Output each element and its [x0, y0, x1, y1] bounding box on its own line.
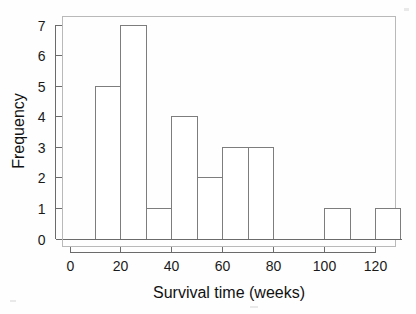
y-tick-label: 0: [38, 232, 46, 248]
x-tick-label: 0: [67, 258, 75, 274]
histogram-bar: [376, 209, 401, 240]
y-tick-label: 4: [38, 109, 46, 125]
histogram-bar: [172, 117, 198, 240]
bars-group: [96, 26, 401, 240]
histogram-bar: [96, 87, 121, 240]
y-axis-ticks: [56, 26, 62, 240]
histogram-bar: [198, 178, 223, 240]
x-tick-label: 60: [215, 258, 231, 274]
histogram-bar: [121, 26, 147, 240]
y-tick-label: 5: [38, 79, 46, 95]
y-axis-title: Frequency: [10, 93, 27, 169]
x-axis-ticks: [71, 247, 376, 253]
histogram-bar: [249, 148, 274, 240]
histogram-bar: [325, 209, 351, 240]
x-tick-label: 100: [313, 258, 337, 274]
y-tick-label: 1: [38, 201, 46, 217]
x-tick-label: 40: [164, 258, 180, 274]
x-tick-label: 20: [113, 258, 129, 274]
x-axis-title: Survival time (weeks): [153, 284, 305, 301]
histogram-bar: [223, 148, 249, 240]
histogram-plot: 020406080100120 01234567 Survival time (…: [0, 0, 416, 314]
y-tick-label: 6: [38, 48, 46, 64]
y-tick-label: 2: [38, 170, 46, 186]
scan-speck: [404, 8, 409, 11]
histogram-figure: 020406080100120 01234567 Survival time (…: [0, 0, 416, 314]
histogram-bar: [147, 209, 172, 240]
y-tick-label: 3: [38, 140, 46, 156]
x-tick-label: 120: [364, 258, 388, 274]
x-tick-labels: 020406080100120: [67, 258, 388, 274]
scan-speck: [250, 306, 258, 308]
y-tick-labels: 01234567: [38, 18, 46, 248]
y-axis: [56, 25, 62, 240]
x-axis: [70, 247, 376, 253]
x-tick-label: 80: [266, 258, 282, 274]
y-tick-label: 7: [38, 18, 46, 34]
scan-speck: [10, 300, 16, 302]
